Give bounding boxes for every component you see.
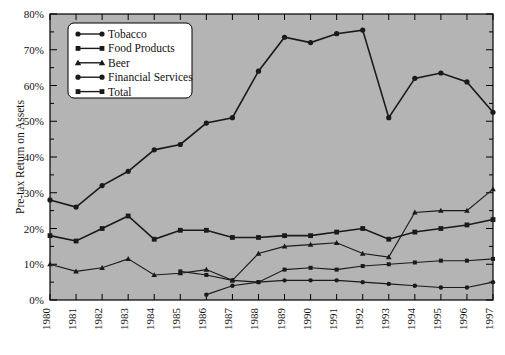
x-tick-label: 1996 — [457, 308, 469, 331]
data-point — [465, 285, 469, 289]
x-tick-label: 1995 — [431, 308, 443, 331]
chart-screenshot: 0%10%20%30%40%50%60%70%80% 1980198119821… — [0, 0, 505, 355]
chart-legend: TobaccoFood ProductsBeerFinancial Servic… — [68, 23, 193, 98]
legend-swatch-marker — [99, 75, 104, 80]
data-point — [334, 230, 339, 235]
data-point — [283, 268, 287, 272]
data-point — [309, 266, 313, 270]
data-point — [230, 235, 235, 240]
data-point — [412, 76, 417, 81]
y-tick-label: 60% — [24, 80, 44, 92]
data-point — [48, 233, 53, 238]
data-point — [204, 228, 209, 233]
legend-label: Tobacco — [108, 28, 147, 40]
data-point — [439, 259, 443, 263]
data-point — [204, 273, 208, 277]
data-point — [100, 226, 105, 231]
data-point — [282, 278, 286, 282]
legend-swatch-marker — [75, 75, 80, 80]
y-axis-tick-labels: 0%10%20%30%40%50%60%70%80% — [24, 8, 44, 306]
legend-label: Total — [108, 86, 131, 98]
data-point — [413, 260, 417, 264]
x-tick-label: 1983 — [118, 308, 130, 331]
data-point — [308, 233, 313, 238]
legend-swatch-marker — [100, 89, 105, 94]
x-tick-label: 1988 — [248, 308, 260, 331]
y-tick-label: 10% — [24, 258, 44, 270]
y-tick-label: 50% — [24, 115, 44, 127]
legend-label: Beer — [108, 57, 130, 69]
y-tick-label: 30% — [24, 187, 44, 199]
data-point — [100, 183, 105, 188]
data-point — [439, 285, 443, 289]
data-point — [412, 230, 417, 235]
data-point — [438, 226, 443, 231]
data-point — [126, 214, 131, 219]
x-tick-label: 1994 — [405, 308, 417, 331]
data-point — [361, 280, 365, 284]
data-point — [152, 237, 157, 242]
data-point — [47, 197, 52, 202]
x-tick-label: 1987 — [222, 308, 234, 331]
data-point — [491, 217, 496, 222]
data-point — [256, 69, 261, 74]
data-point — [361, 264, 365, 268]
data-point — [387, 262, 391, 266]
data-point — [152, 147, 157, 152]
line-chart-figure: 0%10%20%30%40%50%60%70%80% 1980198119821… — [0, 0, 505, 355]
legend-swatch-marker — [99, 31, 104, 36]
data-point — [490, 110, 495, 115]
data-point — [334, 278, 338, 282]
data-point — [204, 120, 209, 125]
data-point — [465, 223, 470, 228]
legend-label: Food Products — [108, 42, 175, 54]
y-tick-label: 20% — [24, 223, 44, 235]
data-point — [230, 115, 235, 120]
x-tick-label: 1991 — [327, 308, 339, 330]
data-point — [256, 235, 261, 240]
data-point — [178, 228, 183, 233]
x-tick-label: 1992 — [353, 308, 365, 330]
data-point — [386, 115, 391, 120]
data-point — [386, 237, 391, 242]
data-point — [73, 204, 78, 209]
y-tick-label: 70% — [24, 44, 44, 56]
data-point — [491, 257, 495, 261]
y-tick-label: 40% — [24, 151, 44, 163]
data-point — [464, 79, 469, 84]
x-tick-label: 1984 — [144, 308, 156, 331]
chart-svg: 0%10%20%30%40%50%60%70%80% 1980198119821… — [0, 0, 505, 355]
x-tick-label: 1989 — [275, 308, 287, 331]
y-axis-title: Pre-tax Return on Assets — [14, 99, 26, 214]
data-point — [387, 282, 391, 286]
data-point — [308, 278, 312, 282]
data-point — [491, 280, 495, 284]
x-tick-label: 1986 — [196, 308, 208, 331]
legend-swatch-marker — [100, 46, 105, 51]
y-tick-label: 0% — [29, 294, 44, 306]
x-tick-label: 1985 — [170, 308, 182, 331]
data-point — [465, 259, 469, 263]
data-point — [126, 169, 131, 174]
data-point — [360, 226, 365, 231]
x-tick-label: 1990 — [301, 308, 313, 331]
x-tick-label: 1997 — [483, 308, 495, 331]
x-tick-label: 1982 — [92, 308, 104, 330]
data-point — [178, 142, 183, 147]
data-point — [413, 284, 417, 288]
legend-swatch-marker — [75, 31, 80, 36]
data-point — [308, 40, 313, 45]
data-point — [230, 284, 234, 288]
x-tick-label: 1980 — [40, 308, 52, 331]
x-tick-label: 1993 — [379, 308, 391, 331]
legend-label: Financial Services — [108, 71, 193, 83]
data-point — [360, 27, 365, 32]
legend-swatch-marker — [76, 46, 81, 51]
data-point — [282, 233, 287, 238]
data-point — [334, 31, 339, 36]
x-axis-tick-labels: 1980198119821983198419851986198719881989… — [40, 308, 495, 331]
data-point — [335, 268, 339, 272]
data-point — [74, 239, 79, 244]
data-point — [256, 280, 260, 284]
y-tick-label: 80% — [24, 8, 44, 20]
